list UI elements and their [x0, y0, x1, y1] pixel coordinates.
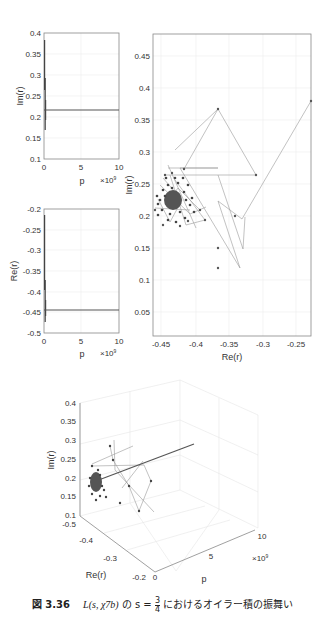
x-tick: -0.5: [62, 520, 76, 529]
x-tick: 5: [79, 163, 84, 172]
y-tick: 0.15: [134, 244, 150, 253]
x-multiplier: ×109: [100, 348, 117, 358]
y-tick: 0.4: [30, 29, 42, 38]
x-tick: -0.4: [189, 340, 203, 349]
z-tick: 0.25: [60, 455, 76, 464]
y-tick: 0.35: [134, 116, 150, 125]
x-axis-label: p: [79, 176, 84, 186]
y-tick: -0.2: [27, 205, 41, 214]
y-tick: -0.3: [27, 246, 41, 255]
y-axis-label: Im(r): [15, 87, 25, 106]
y-tick: -0.25: [23, 226, 42, 235]
y-tick: 0.1: [30, 155, 42, 164]
y-tick: 10: [258, 532, 267, 541]
x-tick: -0.3: [256, 340, 270, 349]
p-axis: [155, 530, 255, 572]
x-multiplier: ×109: [100, 175, 117, 185]
x-tick: -0.25: [287, 340, 306, 349]
y-tick: -0.5: [27, 329, 41, 338]
x-tick: -0.4: [79, 536, 93, 545]
y-tick: 0.25: [134, 180, 150, 189]
y-axis-label: Im(r): [124, 176, 134, 195]
y-tick: -0.45: [23, 308, 42, 317]
x-axis-label: p: [79, 349, 84, 359]
plot-re-vs-p: -0.2 -0.25 -0.3 -0.35 -0.4 -0.45 -0.5 0 …: [9, 205, 124, 359]
x-tick: 10: [115, 337, 124, 346]
y-tick: -0.4: [27, 288, 41, 297]
x-tick: -0.2: [132, 573, 146, 582]
x-tick: -0.3: [103, 554, 117, 563]
p-axis-label: p: [201, 574, 206, 584]
y-tick: 0.4: [139, 84, 151, 93]
y-tick: -0.35: [23, 267, 42, 276]
x-tick: -0.45: [152, 340, 171, 349]
y-tick: 0.2: [139, 212, 151, 221]
y-tick: 0.25: [25, 92, 41, 101]
figure-caption: 図 3.36 L(s, χ7b) の s = 34 におけるオイラー積の振舞い: [0, 596, 325, 614]
x-tick: -0.35: [220, 340, 239, 349]
y-tick: 0.3: [30, 71, 42, 80]
re-axis-label: Re(r): [86, 570, 107, 580]
plot-3d-trajectory: 0.4 0.35 0.3 0.25 0.2 0.15 0.1 -0.5 -0.4…: [46, 380, 269, 584]
z-tick: 0.3: [65, 436, 77, 445]
y-axis-label: Re(r): [9, 261, 19, 282]
caption-end: におけるオイラー積の振舞い: [160, 599, 293, 610]
x-tick: 5: [79, 337, 84, 346]
y-tick: 0.45: [134, 52, 150, 61]
plot-im-vs-p: 0.4 0.35 0.3 0.25 0.2 0.15 0.1 0 5 10 p …: [15, 29, 124, 186]
y-tick: 0.05: [134, 308, 150, 317]
x-tick: 0: [42, 337, 47, 346]
figure-canvas: 0.4 0.35 0.3 0.25 0.2 0.15 0.1 0 5 10 p …: [0, 0, 325, 621]
y-tick: 0.1: [139, 276, 151, 285]
z-tick: 0.2: [65, 474, 77, 483]
caption-math: L(s, χ7b): [83, 599, 119, 610]
caption-mid: の s =: [119, 599, 155, 610]
x-tick: 10: [115, 163, 124, 172]
plot-im-vs-re: 0.45 0.4 0.35 0.3 0.25 0.2 0.15 0.1 0.05…: [124, 34, 312, 362]
z-tick: 0.4: [65, 399, 77, 408]
y-tick: 0.3: [139, 148, 151, 157]
y-tick: 0.15: [25, 134, 41, 143]
im-axis-label: Im(r): [46, 451, 56, 470]
figure-number: 図 3.36: [32, 599, 70, 610]
y-tick: 5: [209, 552, 214, 561]
y-tick: 0.2: [30, 113, 42, 122]
x-tick: 0: [42, 163, 47, 172]
p-multiplier: ×109: [252, 553, 269, 563]
z-tick: 0.35: [60, 417, 76, 426]
x-axis-label: Re(r): [222, 352, 243, 362]
y-tick: 0: [153, 573, 158, 582]
z-tick: 0.1: [65, 511, 77, 520]
z-tick: 0.15: [60, 492, 76, 501]
y-tick: 0.35: [25, 50, 41, 59]
